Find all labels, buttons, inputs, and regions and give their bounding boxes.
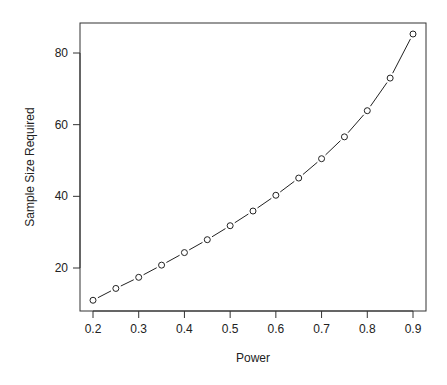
x-tick-label: 0.6: [268, 322, 285, 336]
data-series: [90, 31, 416, 303]
line-segment: [326, 141, 341, 155]
x-tick-label: 0.4: [176, 322, 193, 336]
x-tick-label: 0.3: [130, 322, 147, 336]
x-tick-label: 0.5: [222, 322, 239, 336]
data-point: [341, 134, 347, 140]
line-segment: [212, 229, 225, 237]
sample-size-vs-power-chart: 0.20.30.40.50.60.70.80.9 20406080 Power …: [0, 0, 447, 385]
line-segment: [280, 181, 294, 192]
line-segment: [189, 242, 202, 249]
data-point: [159, 262, 165, 268]
y-tick-label: 40: [55, 189, 69, 203]
line-segment: [98, 291, 111, 298]
data-point: [364, 108, 370, 114]
y-tick-label: 80: [55, 46, 69, 60]
line-segment: [166, 255, 179, 262]
line-segment: [235, 214, 249, 223]
x-axis: 0.20.30.40.50.60.70.80.9: [85, 311, 422, 336]
data-point: [296, 175, 302, 181]
data-point: [113, 285, 119, 291]
line-segment: [144, 268, 157, 275]
line-segment: [258, 198, 272, 208]
line-segment: [348, 115, 364, 133]
x-tick-label: 0.9: [405, 322, 422, 336]
y-axis: 20406080: [55, 46, 80, 275]
line-segment: [303, 162, 317, 174]
data-point: [136, 274, 142, 280]
line-segment: [121, 280, 134, 286]
x-tick-label: 0.2: [85, 322, 102, 336]
data-point: [273, 192, 279, 198]
data-point: [387, 75, 393, 81]
data-point: [250, 208, 256, 214]
x-tick-label: 0.7: [313, 322, 330, 336]
data-point: [319, 156, 325, 162]
x-tick-label: 0.8: [359, 322, 376, 336]
data-point: [181, 250, 187, 256]
y-tick-label: 20: [55, 261, 69, 275]
line-segment: [393, 39, 411, 73]
data-point: [410, 31, 416, 37]
data-point: [90, 297, 96, 303]
data-point: [204, 237, 210, 243]
line-segment: [370, 83, 387, 107]
y-axis-label: Sample Size Required: [23, 107, 37, 226]
x-axis-label: Power: [236, 351, 270, 365]
data-point: [227, 223, 233, 229]
plot-frame: [80, 23, 426, 311]
y-tick-label: 60: [55, 118, 69, 132]
